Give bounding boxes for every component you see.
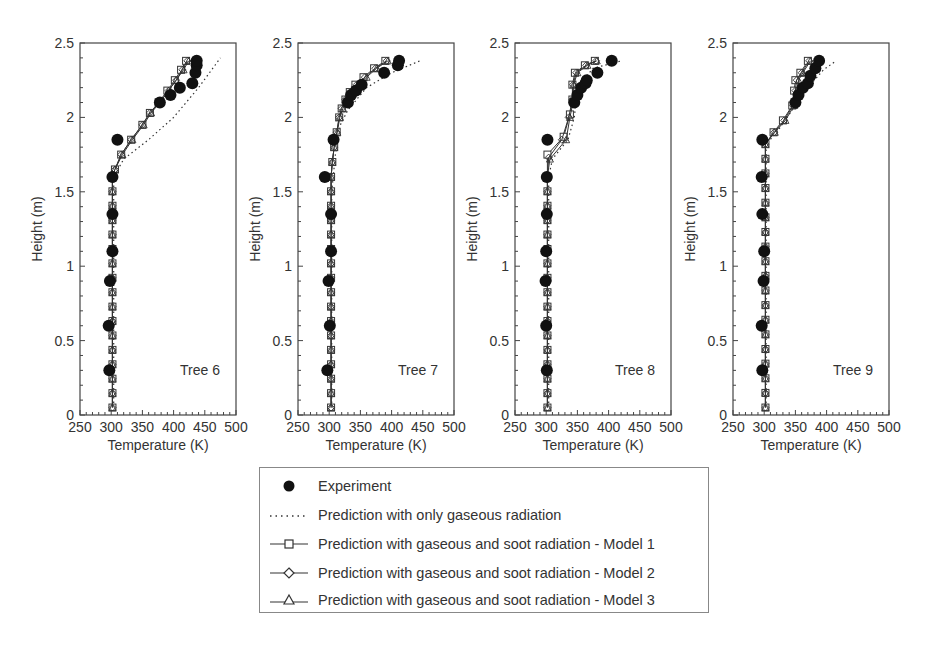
experiment-marker (541, 134, 553, 146)
legend: Experiment Prediction with only gaseous … (259, 467, 709, 613)
experiment-marker (540, 275, 552, 287)
experiment-marker (756, 208, 768, 220)
series-model-1 (331, 61, 385, 408)
experiment-marker (325, 208, 337, 220)
experiment-marker (541, 171, 553, 183)
y-tick-label: 1.5 (490, 184, 510, 200)
legend-label: Prediction with gaseous and soot radiati… (318, 536, 655, 552)
panel-label: Tree 8 (615, 362, 655, 378)
experiment-marker (541, 364, 553, 376)
y-tick-label: 1.5 (708, 184, 728, 200)
x-tick-label: 400 (162, 419, 186, 435)
legend-item-model-1: Prediction with gaseous and soot radiati… (260, 530, 655, 558)
x-tick-label: 350 (566, 419, 590, 435)
line-triangle-icon (260, 590, 310, 610)
chart-panel-1: 25030035040045050000.511.522.5Temperatur… (29, 35, 248, 453)
series-model-1 (765, 61, 808, 408)
experiment-marker (541, 208, 553, 220)
x-tick-label: 450 (846, 419, 870, 435)
y-tick-label: 0.5 (490, 333, 510, 349)
y-tick-label: 0 (719, 407, 727, 423)
y-tick-label: 2 (501, 109, 509, 125)
experiment-marker (325, 245, 337, 257)
x-axis-title: Temperature (K) (760, 437, 861, 453)
experiment-marker (324, 320, 336, 332)
y-tick-label: 1 (284, 258, 292, 274)
y-tick-label: 2.5 (708, 35, 728, 51)
series-model-2 (331, 61, 387, 408)
x-tick-label: 500 (442, 419, 466, 435)
series-gaseous-only (766, 61, 836, 408)
legend-item-experiment: Experiment (260, 472, 391, 500)
y-tick-label: 1 (66, 258, 74, 274)
line-diamond-icon (260, 563, 310, 583)
x-tick-label: 350 (131, 419, 155, 435)
y-tick-label: 1.5 (273, 184, 293, 200)
line-square-icon (260, 534, 310, 554)
y-tick-label: 2 (719, 109, 727, 125)
x-tick-label: 400 (597, 419, 621, 435)
experiment-marker (106, 245, 118, 257)
experiment-marker (591, 67, 603, 79)
x-axis-title: Temperature (K) (107, 437, 208, 453)
y-tick-label: 2 (66, 109, 74, 125)
legend-label: Prediction with gaseous and soot radiati… (318, 592, 655, 608)
square-marker (544, 151, 551, 158)
experiment-marker (540, 320, 552, 332)
panel-label: Tree 6 (180, 362, 220, 378)
x-tick-label: 450 (411, 419, 435, 435)
legend-item-model-2: Prediction with gaseous and soot radiati… (260, 559, 655, 587)
y-axis-title: Height (m) (247, 196, 263, 261)
legend-item-model-3: Prediction with gaseous and soot radiati… (260, 586, 655, 614)
chart-panel-4: 25030035040045050000.511.522.5Temperatur… (682, 35, 901, 453)
y-axis-title: Height (m) (464, 196, 480, 261)
experiment-marker (378, 67, 390, 79)
series-gaseous-only (114, 58, 221, 408)
legend-item-gaseous-only: Prediction with only gaseous radiation (260, 501, 561, 529)
experiment-marker (186, 77, 198, 89)
experiment-marker (756, 134, 768, 146)
experiment-marker (191, 55, 203, 67)
experiment-marker (103, 364, 115, 376)
x-tick-label: 400 (380, 419, 404, 435)
experiment-marker (174, 82, 186, 94)
experiment-marker (319, 171, 331, 183)
y-tick-label: 0.5 (55, 333, 75, 349)
panel-label: Tree 7 (398, 362, 438, 378)
x-tick-label: 450 (628, 419, 652, 435)
y-tick-label: 2 (284, 109, 292, 125)
experiment-marker (104, 275, 116, 287)
y-tick-label: 2.5 (490, 35, 510, 51)
y-axis-title: Height (m) (682, 196, 698, 261)
experiment-marker (106, 208, 118, 220)
x-axis-title: Temperature (K) (325, 437, 426, 453)
experiment-marker (756, 171, 768, 183)
chart-panel-2: 25030035040045050000.511.522.5Temperatur… (247, 35, 466, 453)
plot-frame (298, 43, 454, 415)
experiment-marker (756, 364, 768, 376)
legend-label: Prediction with only gaseous radiation (318, 507, 561, 523)
experiment-marker (540, 245, 552, 257)
experiment-marker (323, 275, 335, 287)
panel-label: Tree 9 (833, 362, 873, 378)
series-gaseous-only (332, 61, 420, 408)
series-model-3 (331, 61, 388, 408)
chart-panels: 25030035040045050000.511.522.5Temperatur… (0, 0, 932, 465)
experiment-marker (758, 275, 770, 287)
experiment-marker (606, 55, 618, 67)
y-tick-label: 1 (501, 258, 509, 274)
x-tick-label: 500 (224, 419, 248, 435)
experiment-marker (328, 134, 340, 146)
series-gaseous-only (549, 61, 621, 408)
experiment-marker (164, 89, 176, 101)
x-tick-label: 300 (753, 419, 777, 435)
series-model-2 (112, 61, 187, 408)
chart-panel-3: 25030035040045050000.511.522.5Temperatur… (464, 35, 683, 453)
y-tick-label: 2.5 (273, 35, 293, 51)
experiment-marker (321, 364, 333, 376)
filled-circle-icon (260, 476, 310, 496)
y-tick-label: 0 (501, 407, 509, 423)
x-tick-label: 400 (815, 419, 839, 435)
plot-frame (733, 43, 889, 415)
experiment-marker (756, 320, 768, 332)
